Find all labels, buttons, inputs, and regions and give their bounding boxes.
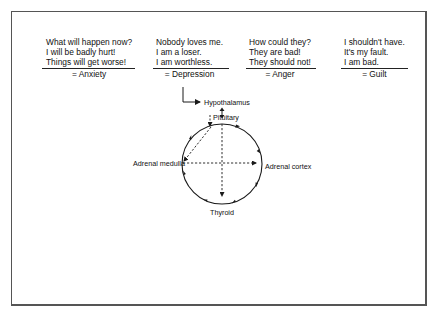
endocrine-diagram — [0, 0, 436, 312]
label-pituitary: Pituitary — [213, 113, 239, 122]
label-adrenal-cortex: Adrenal cortex — [265, 162, 311, 171]
label-thyroid: Thyroid — [210, 208, 234, 217]
depression-to-hypothalamus-arrow — [183, 87, 200, 102]
label-adrenal-medulla: Adrenal medulla — [133, 159, 185, 168]
label-hypothalamus: Hypothalamus — [204, 98, 250, 107]
